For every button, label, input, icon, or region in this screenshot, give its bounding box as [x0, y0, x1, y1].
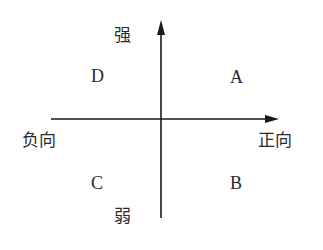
quadrant-label-b: B — [230, 174, 242, 192]
quadrant-label-c: C — [91, 174, 103, 192]
right-arrow-icon — [265, 115, 279, 123]
quadrant-diagram: 强 弱 负向 正向 D A C B — [0, 0, 323, 250]
axis-label-negative: 负向 — [22, 132, 56, 149]
axis-label-positive: 正向 — [258, 132, 292, 149]
quadrant-label-d: D — [91, 67, 104, 85]
quadrant-label-a: A — [230, 68, 243, 86]
axis-label-weak: 弱 — [114, 208, 131, 225]
axes-graphic — [0, 0, 323, 250]
up-arrow-icon — [157, 20, 165, 35]
axis-label-strong: 强 — [114, 27, 131, 44]
